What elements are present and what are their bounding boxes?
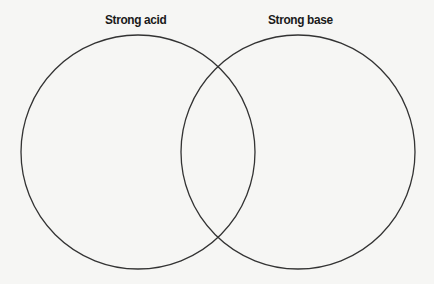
region-strong-base-only [265, 110, 395, 190]
region-strong-acid-only [40, 110, 170, 190]
venn-diagram: Strong acid Strong base [0, 0, 434, 284]
region-overlap [190, 110, 246, 190]
